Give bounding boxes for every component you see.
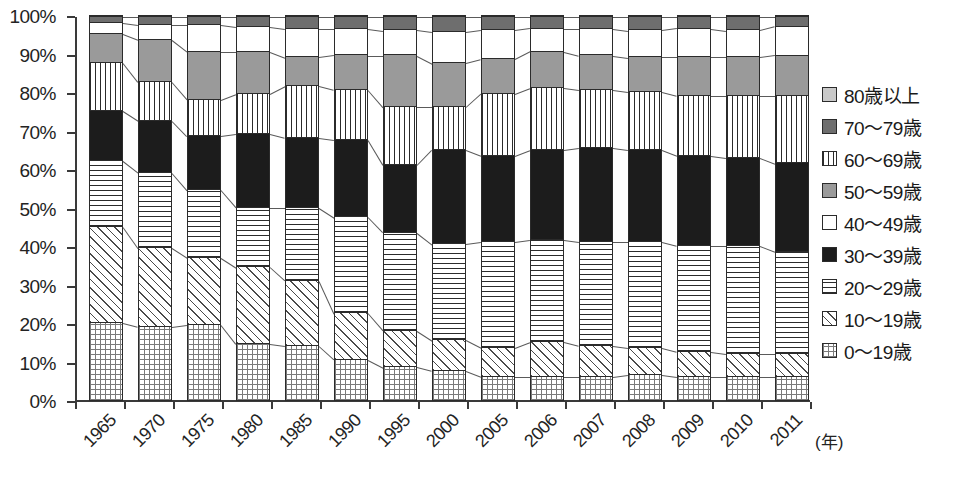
bar-segment-70〜79歳[interactable] xyxy=(187,16,221,24)
bar-1975[interactable] xyxy=(187,15,221,400)
bar-segment-70〜79歳[interactable] xyxy=(481,16,515,29)
bar-segment-20〜29歳[interactable] xyxy=(481,241,515,347)
bar-segment-0〜19歳[interactable] xyxy=(334,359,368,401)
bar-segment-30〜39歳[interactable] xyxy=(89,110,123,160)
bar-segment-10〜19歳[interactable] xyxy=(89,226,123,322)
bar-segment-0〜19歳[interactable] xyxy=(628,374,662,401)
bar-segment-70〜79歳[interactable] xyxy=(138,16,172,24)
bar-segment-60〜69歳[interactable] xyxy=(383,29,417,54)
bar-segment-10〜19歳[interactable] xyxy=(383,330,417,367)
bar-segment-50〜59歳[interactable] xyxy=(579,54,613,89)
bar-segment-20〜29歳[interactable] xyxy=(187,189,221,256)
bar-segment-20〜29歳[interactable] xyxy=(334,216,368,312)
bar-segment-10〜19歳[interactable] xyxy=(530,341,564,376)
bar-segment-30〜39歳[interactable] xyxy=(677,155,711,245)
legend-item-80歳以上[interactable]: 80歳以上 xyxy=(822,78,954,110)
bar-segment-20〜29歳[interactable] xyxy=(432,243,466,339)
bar-segment-20〜29歳[interactable] xyxy=(677,245,711,351)
bar-2008[interactable] xyxy=(628,15,662,400)
bar-segment-10〜19歳[interactable] xyxy=(236,266,270,343)
bar-segment-40〜49歳[interactable] xyxy=(334,89,368,139)
bar-segment-40〜49歳[interactable] xyxy=(187,99,221,136)
legend-item-20〜29歳[interactable]: 20〜29歳 xyxy=(822,270,954,302)
bar-segment-40〜49歳[interactable] xyxy=(138,81,172,120)
bar-segment-60〜69歳[interactable] xyxy=(579,28,613,55)
bar-segment-70〜79歳[interactable] xyxy=(530,16,564,28)
bar-segment-20〜29歳[interactable] xyxy=(236,207,270,267)
bar-1980[interactable] xyxy=(236,15,270,400)
bar-segment-60〜69歳[interactable] xyxy=(89,22,123,34)
bar-segment-0〜19歳[interactable] xyxy=(432,370,466,401)
bar-segment-0〜19歳[interactable] xyxy=(383,366,417,401)
bar-segment-30〜39歳[interactable] xyxy=(726,157,760,246)
bar-segment-40〜49歳[interactable] xyxy=(383,106,417,164)
bar-segment-50〜59歳[interactable] xyxy=(432,62,466,106)
bar-2009[interactable] xyxy=(677,15,711,400)
bar-segment-10〜19歳[interactable] xyxy=(334,312,368,358)
bar-segment-20〜29歳[interactable] xyxy=(726,245,760,353)
bar-segment-0〜19歳[interactable] xyxy=(236,343,270,401)
legend-item-30〜39歳[interactable]: 30〜39歳 xyxy=(822,238,954,270)
legend-item-50〜59歳[interactable]: 50〜59歳 xyxy=(822,174,954,206)
bar-segment-50〜59歳[interactable] xyxy=(187,51,221,99)
bar-segment-50〜59歳[interactable] xyxy=(334,54,368,89)
bar-segment-60〜69歳[interactable] xyxy=(138,24,172,39)
bar-segment-50〜59歳[interactable] xyxy=(530,51,564,88)
bar-2000[interactable] xyxy=(432,15,466,400)
bar-segment-10〜19歳[interactable] xyxy=(677,351,711,376)
bar-segment-50〜59歳[interactable] xyxy=(285,56,319,85)
bar-segment-40〜49歳[interactable] xyxy=(579,89,613,147)
bar-segment-40〜49歳[interactable] xyxy=(285,85,319,137)
bar-2007[interactable] xyxy=(579,15,613,400)
bar-segment-40〜49歳[interactable] xyxy=(481,93,515,155)
bar-segment-70〜79歳[interactable] xyxy=(579,16,613,28)
bar-segment-10〜19歳[interactable] xyxy=(628,347,662,374)
bar-segment-30〜39歳[interactable] xyxy=(383,164,417,231)
bar-segment-30〜39歳[interactable] xyxy=(187,135,221,189)
bar-segment-70〜79歳[interactable] xyxy=(726,16,760,29)
bar-segment-50〜59歳[interactable] xyxy=(89,33,123,62)
bar-segment-20〜29歳[interactable] xyxy=(628,241,662,347)
bar-segment-20〜29歳[interactable] xyxy=(530,239,564,341)
bar-segment-60〜69歳[interactable] xyxy=(726,29,760,56)
bar-segment-40〜49歳[interactable] xyxy=(726,95,760,157)
bar-segment-10〜19歳[interactable] xyxy=(579,345,613,376)
bar-segment-20〜29歳[interactable] xyxy=(285,207,319,280)
bar-segment-10〜19歳[interactable] xyxy=(285,280,319,345)
bar-segment-50〜59歳[interactable] xyxy=(677,56,711,95)
bar-segment-60〜69歳[interactable] xyxy=(530,28,564,51)
bar-segment-30〜39歳[interactable] xyxy=(775,162,809,251)
bar-segment-50〜59歳[interactable] xyxy=(775,55,809,95)
legend-item-10〜19歳[interactable]: 10〜19歳 xyxy=(822,302,954,334)
bar-segment-10〜19歳[interactable] xyxy=(726,353,760,376)
bar-segment-20〜29歳[interactable] xyxy=(775,251,809,353)
bar-segment-40〜49歳[interactable] xyxy=(236,93,270,133)
bar-segment-0〜19歳[interactable] xyxy=(579,376,613,401)
bar-segment-0〜19歳[interactable] xyxy=(187,324,221,401)
bar-segment-20〜29歳[interactable] xyxy=(138,172,172,247)
bar-segment-50〜59歳[interactable] xyxy=(481,58,515,93)
legend-item-70〜79歳[interactable]: 70〜79歳 xyxy=(822,110,954,142)
bar-segment-10〜19歳[interactable] xyxy=(187,257,221,324)
bar-segment-70〜79歳[interactable] xyxy=(334,16,368,28)
bar-segment-40〜49歳[interactable] xyxy=(775,95,809,162)
bar-1965[interactable] xyxy=(89,15,123,400)
bar-segment-40〜49歳[interactable] xyxy=(89,62,123,110)
bar-1985[interactable] xyxy=(285,15,319,400)
bar-segment-40〜49歳[interactable] xyxy=(432,106,466,148)
bar-segment-20〜29歳[interactable] xyxy=(579,241,613,345)
bar-1990[interactable] xyxy=(334,15,368,400)
bar-segment-50〜59歳[interactable] xyxy=(383,54,417,106)
bar-segment-0〜19歳[interactable] xyxy=(481,376,515,401)
bar-segment-30〜39歳[interactable] xyxy=(579,147,613,241)
bar-segment-40〜49歳[interactable] xyxy=(628,91,662,149)
bar-segment-70〜79歳[interactable] xyxy=(285,16,319,28)
bar-segment-0〜19歳[interactable] xyxy=(677,376,711,401)
bar-segment-10〜19歳[interactable] xyxy=(432,339,466,370)
legend-item-40〜49歳[interactable]: 40〜49歳 xyxy=(822,206,954,238)
bar-segment-0〜19歳[interactable] xyxy=(775,376,809,401)
bar-segment-60〜69歳[interactable] xyxy=(677,28,711,57)
legend-item-60〜69歳[interactable]: 60〜69歳 xyxy=(822,142,954,174)
bar-segment-70〜79歳[interactable] xyxy=(677,16,711,28)
bar-segment-50〜59歳[interactable] xyxy=(726,56,760,95)
